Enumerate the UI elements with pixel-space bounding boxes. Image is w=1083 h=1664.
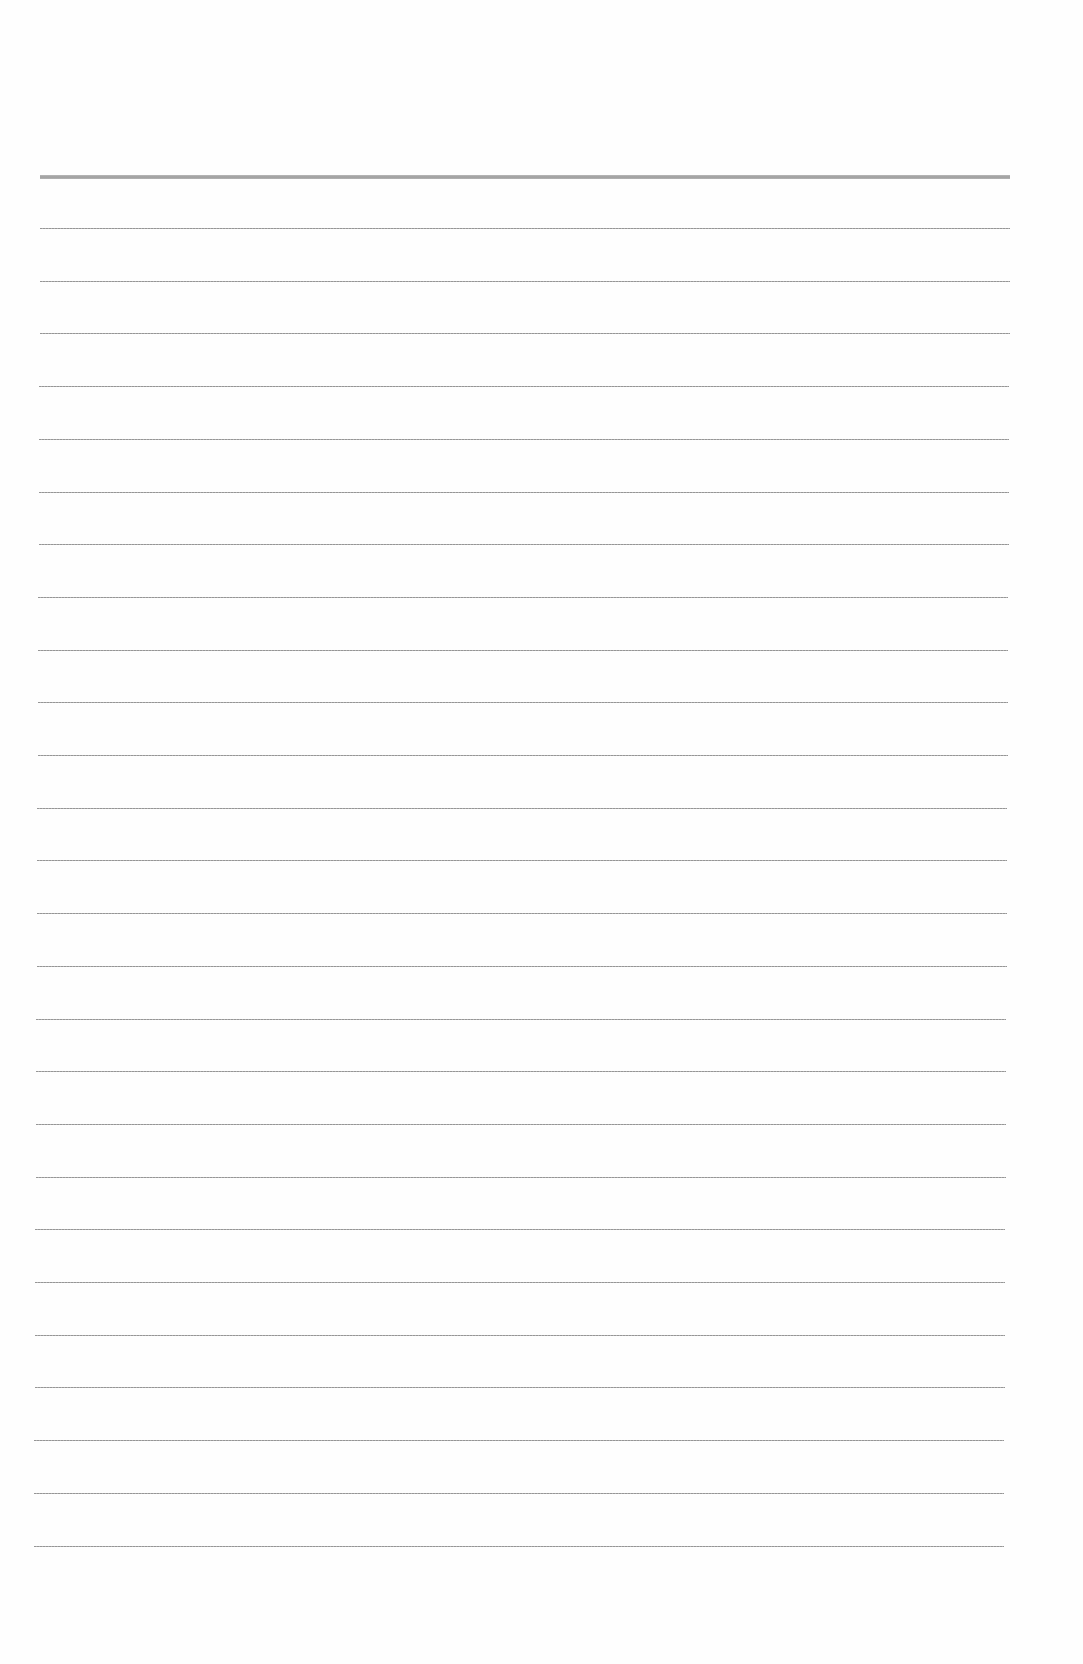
- ruled-line: [38, 597, 1008, 598]
- header-rule: [40, 175, 1010, 179]
- ruled-line: [37, 808, 1007, 809]
- ruled-line: [34, 1440, 1004, 1441]
- ruled-line: [39, 492, 1009, 493]
- ruled-line: [40, 333, 1010, 334]
- ruled-line: [34, 1493, 1004, 1494]
- ruled-paper-page: [0, 0, 1083, 1664]
- ruled-line: [38, 702, 1008, 703]
- ruled-line: [35, 1335, 1005, 1336]
- ruled-line: [40, 228, 1010, 229]
- ruled-line: [38, 755, 1008, 756]
- ruled-line: [36, 1177, 1006, 1178]
- ruled-line: [37, 966, 1007, 967]
- ruled-line: [39, 386, 1009, 387]
- ruled-line: [36, 1124, 1006, 1125]
- ruled-line: [35, 1229, 1005, 1230]
- ruled-line: [37, 913, 1007, 914]
- ruled-line: [38, 650, 1008, 651]
- ruled-line: [40, 281, 1010, 282]
- ruled-line: [34, 1546, 1004, 1547]
- ruled-line: [39, 544, 1009, 545]
- ruled-line: [35, 1282, 1005, 1283]
- ruled-line: [36, 1019, 1006, 1020]
- ruled-line: [35, 1387, 1005, 1388]
- ruled-line: [39, 439, 1009, 440]
- ruled-line: [37, 860, 1007, 861]
- ruled-line: [36, 1071, 1006, 1072]
